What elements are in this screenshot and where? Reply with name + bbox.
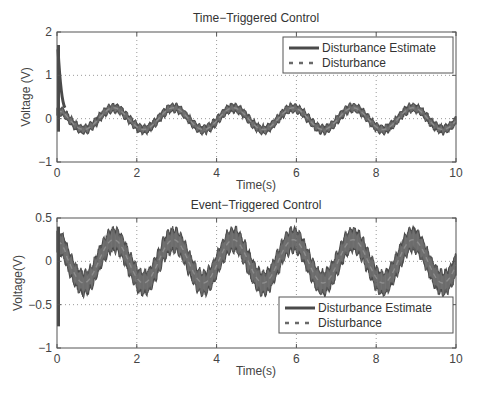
time-triggered-plot: Time−Triggered Control Time(s) Voltage (… [19, 11, 463, 192]
legend-label-disturbance: Disturbance [322, 56, 386, 70]
x-tick-label: 2 [133, 166, 140, 180]
legend-label-estimate: Disturbance Estimate [318, 301, 432, 315]
x-tick-label: 8 [373, 352, 380, 366]
y-tick-label: 0.5 [35, 211, 52, 225]
y-tick-label: −1 [38, 155, 52, 169]
y-tick-label: −1 [38, 341, 52, 355]
event-triggered-plot: Event−Triggered Control Time(s) Voltage(… [11, 198, 463, 378]
y-tick-label: 0 [45, 112, 52, 126]
figure: Time−Triggered Control Time(s) Voltage (… [0, 0, 483, 405]
x-tick-label: 6 [293, 352, 300, 366]
x-tick-label: 10 [449, 352, 463, 366]
y-tick-label: 1 [45, 68, 52, 82]
y-axis-label: Voltage (V) [19, 67, 33, 126]
y-tick-label: −0.5 [28, 298, 52, 312]
x-tick-label: 0 [54, 166, 61, 180]
legend-label-estimate: Disturbance Estimate [322, 41, 436, 55]
axis-ticks: 0246810−1−0.500.5 [28, 211, 463, 366]
x-tick-label: 4 [213, 166, 220, 180]
y-tick-label: 0 [45, 254, 52, 268]
legend-label-disturbance: Disturbance [318, 316, 382, 330]
x-tick-label: 2 [133, 352, 140, 366]
y-tick-label: 2 [45, 25, 52, 39]
legend: Disturbance Estimate Disturbance [283, 37, 453, 73]
x-tick-label: 4 [213, 352, 220, 366]
y-axis-label: Voltage(V) [11, 255, 25, 311]
x-axis-label: Time(s) [236, 364, 276, 378]
x-tick-label: 6 [293, 166, 300, 180]
x-tick-label: 0 [54, 352, 61, 366]
x-tick-label: 8 [373, 166, 380, 180]
x-tick-label: 10 [449, 166, 463, 180]
x-axis-label: Time(s) [236, 178, 276, 192]
plot-title: Event−Triggered Control [191, 198, 322, 212]
plot-title: Time−Triggered Control [193, 11, 319, 25]
legend: Disturbance Estimate Disturbance [279, 297, 453, 333]
